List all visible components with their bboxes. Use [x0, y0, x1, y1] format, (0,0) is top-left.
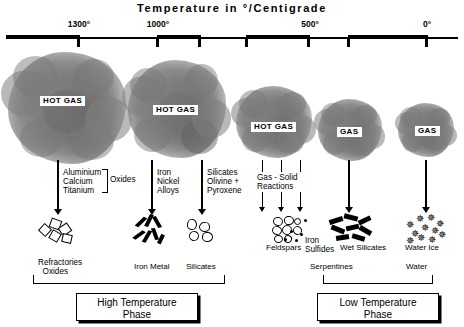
high-temperature-bracket: [33, 275, 225, 284]
wet-silicate-symbols: [328, 214, 376, 244]
label-aluminium-calcium-titanium: Aluminium Calcium Titanium: [63, 168, 101, 196]
axis-tick: [156, 37, 159, 47]
caption-refractories-oxides: Refractories Oxides: [38, 258, 82, 276]
gas-cloud-1-label: HOT GAS: [40, 96, 85, 106]
silicate-symbols: [186, 218, 222, 244]
refractory-oxide-symbols: [38, 218, 82, 244]
gas-solid-arrow-a-top: [262, 160, 263, 172]
gas-solid-arrow-c-top: [300, 160, 301, 172]
iron-metal-symbols: [135, 214, 169, 248]
caption-iron-metal: Iron Metal: [134, 262, 170, 271]
caption-water-ice: Water Ice: [405, 243, 439, 252]
gas-cloud-4-label: GAS: [337, 127, 362, 137]
gas-cloud-2-label: HOT GAS: [153, 105, 198, 115]
axis-segment: [246, 35, 310, 39]
oxides-brace: [102, 169, 108, 193]
axis-tick: [77, 37, 80, 47]
axis-tick-label-1300: 1300°: [68, 19, 90, 29]
condensation-arrow-1: [57, 160, 59, 210]
axis-segment: [348, 35, 428, 39]
axis-tick-label-0: 0°: [423, 19, 431, 29]
serpentinisation-arrow-head: [345, 207, 353, 213]
gas-solid-arrow-c: [300, 192, 301, 208]
axis-tick: [425, 37, 428, 47]
axis-segment: [6, 35, 80, 39]
gas-cloud-5-label: GAS: [415, 126, 440, 136]
low-temperature-phase-box[interactable]: Low Temperature Phase: [317, 293, 439, 321]
caption-water: Water: [406, 262, 427, 271]
label-iron-nickel-alloys: Iron Nickel Alloys: [157, 168, 179, 196]
label-silicates-olivine-pyroxene: Silicates Olivine + Pyroxene: [207, 168, 242, 196]
condensation-sequence-diagram: Temperature in °/Centigrade 1300° 1000° …: [0, 0, 464, 327]
condensation-arrow-2: [151, 160, 153, 210]
gas-solid-arrow-a: [262, 192, 263, 208]
label-gas-solid-reactions: Gas - Solid Reactions: [257, 173, 298, 191]
condensation-arrow-3-head: [198, 209, 206, 215]
condensation-arrow-1-head: [54, 209, 62, 215]
gas-solid-arrow-b-top: [281, 160, 282, 172]
serpentinisation-arrow: [348, 160, 350, 208]
axis-tick-label-500: 500°: [301, 19, 319, 29]
caption-wet-silicates: Wet Silicates: [340, 243, 386, 252]
axis-tick: [198, 37, 201, 47]
gas-cloud-3-label: HOT GAS: [251, 122, 296, 132]
caption-silicates: Silicates: [186, 262, 216, 271]
label-oxides: Oxides: [110, 175, 135, 184]
high-temperature-phase-box[interactable]: High Temperature Phase: [76, 293, 198, 321]
axis-tick: [307, 37, 310, 47]
gas-solid-arrow-b-head: [278, 207, 284, 212]
low-temperature-bracket: [323, 275, 433, 284]
caption-serpentines: Serpentines: [310, 262, 353, 271]
gas-solid-arrow-b: [281, 192, 282, 208]
water-ice-arrow: [425, 160, 427, 208]
axis-segment: [157, 35, 201, 39]
axis-tick: [347, 37, 350, 47]
gas-solid-arrow-a-head: [259, 207, 265, 212]
gas-solid-arrow-c-head: [297, 207, 303, 212]
caption-iron-sulfides: Iron Sulfides: [305, 236, 334, 254]
axis-tick-label-1000: 1000°: [147, 19, 169, 29]
caption-feldspars: Feldspars: [266, 243, 301, 252]
condensation-arrow-3: [201, 160, 203, 210]
axis-tick: [245, 37, 248, 47]
temperature-axis: 1300° 1000° 500° 0°: [0, 0, 464, 50]
gas-cloud-1: [8, 52, 126, 164]
water-ice-symbols: ✵ ✵ ✵ ✵ ✵ ✵ ✵ ✵ ✵ ✵ ✵: [404, 212, 450, 244]
